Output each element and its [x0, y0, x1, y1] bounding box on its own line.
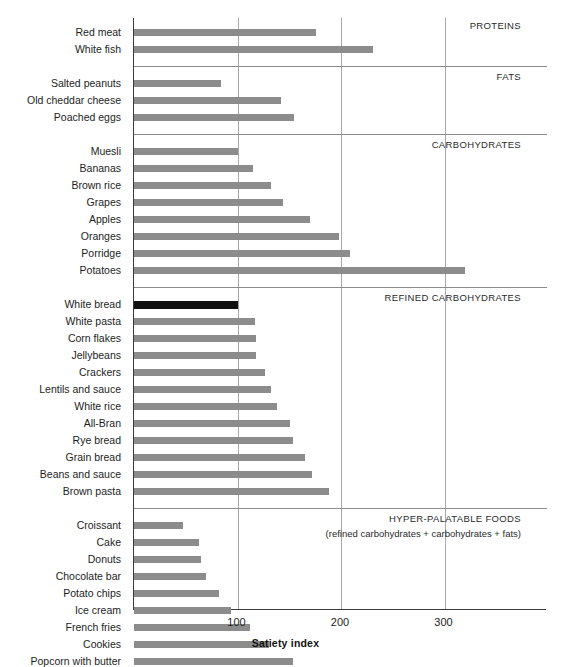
y-label-beans-and-sauce: Beans and sauce: [0, 468, 128, 480]
bar-salted-peanuts: [134, 80, 221, 87]
y-label-lentils-and-sauce: Lentils and sauce: [0, 383, 128, 395]
bar-row: [134, 160, 547, 177]
y-label-jellybeans: Jellybeans: [0, 349, 128, 361]
bar-lentils-and-sauce: [134, 386, 271, 393]
bar-grapes: [134, 199, 283, 206]
y-label-apples: Apples: [0, 213, 128, 225]
bar-row: [134, 551, 547, 568]
bar-corn-flakes: [134, 335, 256, 342]
bar-row: [134, 330, 547, 347]
bar-row: [134, 245, 547, 262]
bar-row: [134, 92, 547, 109]
satiety-index-chart: PROTEINSFATSCARBOHYDRATESREFINED CARBOHY…: [0, 0, 571, 667]
bar-row: [134, 75, 547, 92]
bar-row: [134, 398, 547, 415]
y-label-bananas: Bananas: [0, 162, 128, 174]
x-tick-label-300: 300: [434, 616, 452, 628]
y-label-rye-bread: Rye bread: [0, 434, 128, 446]
bar-row: [134, 415, 547, 432]
bar-white-bread: [134, 301, 238, 309]
y-label-all-bran: All-Bran: [0, 417, 128, 429]
bar-potatoes: [134, 267, 465, 274]
y-label-potato-chips: Potato chips: [0, 587, 128, 599]
y-label-white-bread: White bread: [0, 298, 128, 310]
bar-row: [134, 449, 547, 466]
bar-row: [134, 109, 547, 126]
bar-beans-and-sauce: [134, 471, 312, 478]
bar-ice-cream: [134, 607, 231, 614]
x-axis-title: Satiety index: [0, 637, 571, 649]
y-label-white-rice: White rice: [0, 400, 128, 412]
bar-row: [134, 432, 547, 449]
group-label-fats: FATS: [497, 71, 521, 82]
group-label-refined-carbohydrates: REFINED CARBOHYDRATES: [385, 292, 522, 303]
bar-croissant: [134, 522, 183, 529]
plot-area: PROTEINSFATSCARBOHYDRATESREFINED CARBOHY…: [133, 18, 546, 610]
bar-bananas: [134, 165, 253, 172]
y-label-grain-bread: Grain bread: [0, 451, 128, 463]
y-label-corn-flakes: Corn flakes: [0, 332, 128, 344]
bar-crackers: [134, 369, 265, 376]
bar-row: [134, 585, 547, 602]
group-separator: [134, 66, 547, 67]
y-label-salted-peanuts: Salted peanuts: [0, 77, 128, 89]
bar-row: [134, 262, 547, 279]
bar-muesli: [134, 148, 238, 155]
bar-row: [134, 347, 547, 364]
y-label-white-fish: White fish: [0, 43, 128, 55]
bar-white-rice: [134, 403, 277, 410]
y-label-french-fries: French fries: [0, 621, 128, 633]
bar-brown-pasta: [134, 488, 329, 495]
y-label-brown-pasta: Brown pasta: [0, 485, 128, 497]
y-label-old-cheddar-cheese: Old cheddar cheese: [0, 94, 128, 106]
group-label-proteins: PROTEINS: [470, 20, 521, 31]
y-label-ice-cream: Ice cream: [0, 604, 128, 616]
bar-porridge: [134, 250, 350, 257]
bar-row: [134, 568, 547, 585]
bar-white-pasta: [134, 318, 255, 325]
bar-apples: [134, 216, 310, 223]
bar-row: [134, 466, 547, 483]
bar-popcorn-with-butter: [134, 658, 293, 665]
bar-oranges: [134, 233, 339, 240]
y-label-potatoes: Potatoes: [0, 264, 128, 276]
bar-all-bran: [134, 420, 290, 427]
bar-row: [134, 313, 547, 330]
y-label-porridge: Porridge: [0, 247, 128, 259]
y-label-chocolate-bar: Chocolate bar: [0, 570, 128, 582]
bar-row: [134, 194, 547, 211]
group-separator: [134, 134, 547, 135]
bar-cake: [134, 539, 199, 546]
group-separator: [134, 508, 547, 509]
group-label-hyper-palatable-foods: HYPER-PALATABLE FOODS: [389, 513, 521, 524]
y-label-popcorn-with-butter: Popcorn with butter: [0, 655, 128, 667]
y-label-red-meat: Red meat: [0, 26, 128, 38]
bar-red-meat: [134, 29, 316, 36]
bar-poached-eggs: [134, 114, 294, 121]
bar-rye-bread: [134, 437, 293, 444]
y-label-donuts: Donuts: [0, 553, 128, 565]
group-separator: [134, 287, 547, 288]
bar-row: [134, 364, 547, 381]
bar-white-fish: [134, 46, 373, 53]
bar-old-cheddar-cheese: [134, 97, 281, 104]
y-label-poached-eggs: Poached eggs: [0, 111, 128, 123]
bar-brown-rice: [134, 182, 271, 189]
bar-jellybeans: [134, 352, 256, 359]
y-label-brown-rice: Brown rice: [0, 179, 128, 191]
x-tick-label-200: 200: [331, 616, 349, 628]
bar-row: [134, 177, 547, 194]
x-tick-label-100: 100: [227, 616, 245, 628]
bar-row: [134, 228, 547, 245]
group-label-carbohydrates: CARBOHYDRATES: [432, 139, 521, 150]
y-label-cake: Cake: [0, 536, 128, 548]
group-sublabel: (refined carbohydrates + carbohydrates +…: [326, 528, 521, 539]
y-label-crackers: Crackers: [0, 366, 128, 378]
bar-row: [134, 483, 547, 500]
bar-row: [134, 41, 547, 58]
y-label-muesli: Muesli: [0, 145, 128, 157]
bar-grain-bread: [134, 454, 305, 461]
bar-row: [134, 381, 547, 398]
y-label-white-pasta: White pasta: [0, 315, 128, 327]
y-label-oranges: Oranges: [0, 230, 128, 242]
